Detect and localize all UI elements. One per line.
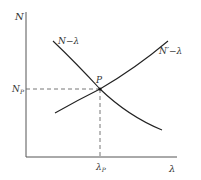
y-axis-label: N	[14, 11, 25, 22]
curve-n-lambda	[53, 41, 162, 130]
x-axis-label: λ	[168, 163, 175, 174]
diagram-canvas: N λ N−λ N′−λ P NP λP	[0, 0, 201, 180]
intersection-point	[98, 87, 101, 90]
curve-label-n-lambda: N−λ	[57, 36, 79, 46]
x-tick-lambda-p-main: λ	[95, 162, 102, 172]
y-tick-np: NP	[11, 84, 25, 95]
curve-n-prime-lambda	[55, 41, 168, 113]
point-label-p: P	[95, 75, 103, 85]
x-tick-lambda-p-sub: P	[101, 166, 107, 173]
x-tick-lambda-p: λP	[95, 162, 107, 173]
y-tick-np-sub: P	[19, 88, 25, 95]
curve-label-n-prime-lambda: N′−λ	[158, 46, 182, 56]
